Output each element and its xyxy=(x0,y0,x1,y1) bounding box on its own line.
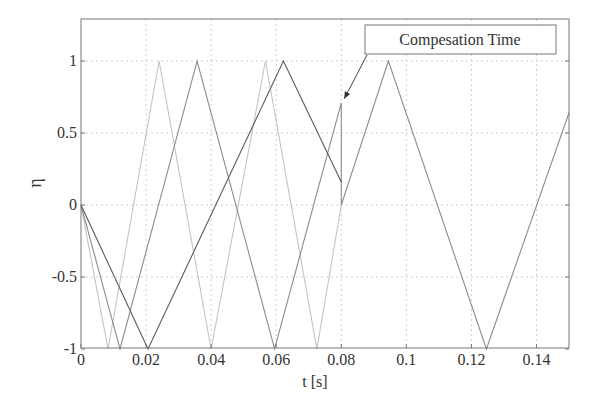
y-tick-label: 0 xyxy=(69,196,77,213)
x-tick-label: 0.02 xyxy=(132,351,160,368)
annotation-compensation-time: Compesation Time xyxy=(344,25,556,99)
x-tick-label: 0.1 xyxy=(396,351,416,368)
chart: 00.020.040.060.080.10.120.14-1-0.500.51 … xyxy=(0,0,597,417)
annotation-text: Compesation Time xyxy=(399,31,520,49)
x-axis-label: t [s] xyxy=(302,373,327,390)
y-tick-label: 0.5 xyxy=(57,124,77,141)
y-axis-label: η xyxy=(25,178,45,187)
x-tick-label: 0.04 xyxy=(197,351,225,368)
chart-canvas: 00.020.040.060.080.10.120.14-1-0.500.51 … xyxy=(0,0,597,417)
x-tick-label: 0.12 xyxy=(457,351,485,368)
x-tick-label: 0.14 xyxy=(522,351,550,368)
annotation-arrow xyxy=(344,55,367,99)
data-series xyxy=(81,61,569,349)
x-tick-label: 0.06 xyxy=(262,351,290,368)
y-tick-label: 1 xyxy=(69,52,77,69)
x-tick-label: 0 xyxy=(77,351,85,368)
tick-labels: 00.020.040.060.080.10.120.14-1-0.500.51 xyxy=(52,52,569,368)
y-tick-label: -1 xyxy=(64,340,77,357)
x-tick-label: 0.08 xyxy=(327,351,355,368)
y-tick-label: -0.5 xyxy=(52,268,77,285)
series-carrier-medium xyxy=(81,61,569,349)
